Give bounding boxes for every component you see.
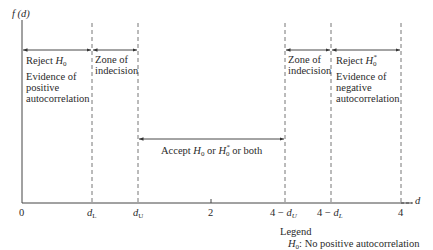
region-reject-h0-star-line3: autocorrelation <box>336 93 400 105</box>
tick-label-4: 4 <box>398 207 403 219</box>
legend-title: Legend <box>280 226 312 238</box>
tick-label-dU: dU <box>133 207 143 222</box>
region-reject-h0-line3: autocorrelation <box>26 93 90 105</box>
tick-label-0: 0 <box>19 207 24 219</box>
tick-label-4-minus-dL: 4 − dL <box>317 207 343 222</box>
region-reject-h0-star-title: Reject H*0 <box>336 55 377 70</box>
y-axis-label: f (d) <box>12 8 30 20</box>
region-reject-h0-title: Reject H0 <box>26 55 67 70</box>
region-accept-label: Accept H0 or H*0 or both <box>161 145 262 160</box>
legend-entry-h0: H0: No positive autocorrelation <box>288 238 420 250</box>
region-indecision-right-line2: indecision <box>288 65 331 77</box>
tick-label-dL: dL <box>87 207 97 222</box>
tick-label-4-minus-dU: 4 − dU <box>270 207 297 222</box>
x-axis-label: d <box>415 195 420 207</box>
region-indecision-left-line2: indecision <box>95 65 138 77</box>
tick-label-2: 2 <box>208 207 213 219</box>
diagram-canvas <box>0 0 433 250</box>
